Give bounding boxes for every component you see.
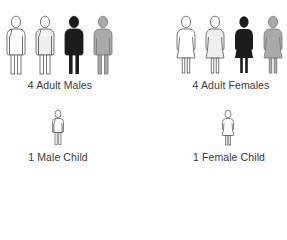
female-child-label: 1 Female Child — [193, 151, 265, 163]
male-child-label: 1 Male Child — [28, 151, 88, 163]
female-child-icon — [222, 110, 234, 145]
adult-males-label: 4 Adult Males — [28, 79, 92, 91]
adult-females-label: 4 Adult Females — [193, 79, 270, 91]
